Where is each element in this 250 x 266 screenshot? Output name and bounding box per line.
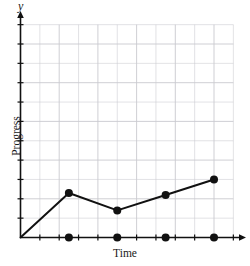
y-axis-letter: y xyxy=(18,0,23,14)
x-axis-title: Time xyxy=(0,247,250,259)
y-axis-title: Progress xyxy=(10,96,22,176)
chart-canvas xyxy=(0,0,250,266)
data-point-markers xyxy=(65,175,218,214)
progress-vs-time-chart: y Progress Time xyxy=(0,0,250,266)
grid-lines xyxy=(21,25,234,238)
